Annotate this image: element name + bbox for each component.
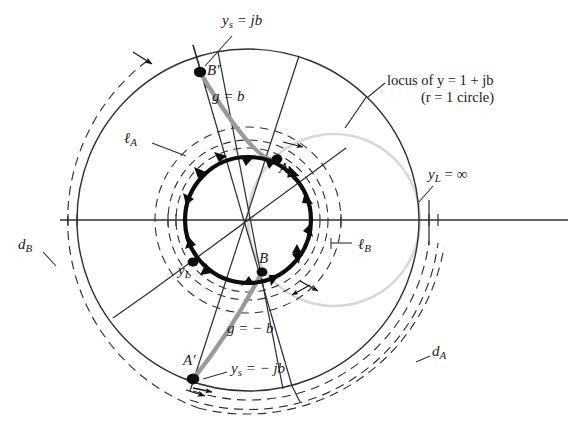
ys-pos-rest: = jb xyxy=(233,12,262,28)
label-g-equals-b: g = b xyxy=(212,88,245,105)
leader-locus xyxy=(368,83,385,97)
yl-sub: L xyxy=(185,268,191,280)
leader-ys-neg xyxy=(203,372,227,379)
leader-yl-inf xyxy=(419,186,433,202)
locus-line2: (r = 1 circle) xyxy=(387,89,494,106)
ell-a-sub: A xyxy=(130,136,137,148)
label-locus: locus of y = 1 + jb (r = 1 circle) xyxy=(387,72,494,105)
stub-lower-left xyxy=(113,292,150,318)
d-b-sub: B xyxy=(26,242,33,254)
arrowhead-lb-bottom xyxy=(292,285,310,295)
outer-arrowheads xyxy=(133,52,205,396)
label-d-b: dB xyxy=(18,236,32,255)
ys-neg-rest: = − jb xyxy=(242,360,285,376)
ell-b-sub: B xyxy=(364,242,371,254)
label-point-a: A xyxy=(279,160,288,177)
label-yl: yL xyxy=(178,262,191,281)
locus-line1: locus of y = 1 + jb xyxy=(387,72,494,88)
label-ell-b: ℓB xyxy=(358,236,371,255)
stub-lower xyxy=(292,386,300,402)
smith-chart-canvas xyxy=(0,0,584,425)
radial-line-a-aprime xyxy=(190,56,299,391)
arrowhead-da-bottom xyxy=(186,390,205,396)
yl-inf-rest: = ∞ xyxy=(441,166,468,182)
marker-b-prime xyxy=(194,67,206,77)
smith-chart-figure: ys = jb B′ g = b locus of y = 1 + jb (r … xyxy=(0,0,584,425)
marker-point-b xyxy=(257,267,268,276)
arrowhead-db-top xyxy=(133,52,152,64)
trace-bprime-to-a xyxy=(201,74,277,160)
leader-d-a xyxy=(416,356,430,362)
dashed-arc-db xyxy=(68,61,198,408)
label-ell-a: ℓA xyxy=(124,130,137,149)
leader-ell-a xyxy=(152,143,186,156)
label-d-a: dA xyxy=(432,343,446,362)
label-ys-negative: ys = − jb xyxy=(231,360,285,379)
leader-d-b xyxy=(43,252,56,266)
label-yl-infinity: yL = ∞ xyxy=(428,166,467,185)
stub-upper-right xyxy=(345,96,367,128)
label-point-b: B xyxy=(259,250,268,267)
d-a-sub: A xyxy=(440,349,447,361)
label-g-equals-neg-b: g = − b xyxy=(227,320,274,337)
label-ys-positive: ys = jb xyxy=(222,12,262,31)
label-b-prime: B′ xyxy=(207,62,219,79)
arrowhead-la-top xyxy=(283,142,303,147)
marker-a-prime xyxy=(187,374,200,385)
outer-radial-stubs xyxy=(113,45,429,402)
label-a-prime: A′ xyxy=(183,352,195,369)
